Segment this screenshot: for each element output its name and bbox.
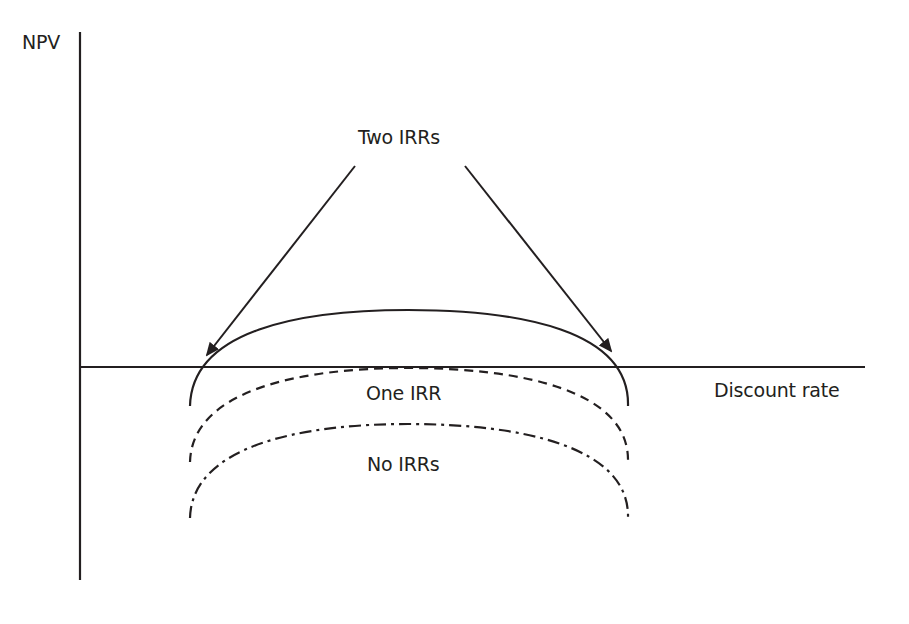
- x-axis-label: Discount rate: [714, 381, 839, 400]
- y-axis-label: NPV: [22, 33, 60, 52]
- npv-irr-diagram: [0, 0, 909, 624]
- one-irr-label: One IRR: [366, 384, 441, 403]
- two-irrs-label: Two IRRs: [358, 128, 440, 147]
- arrow-left-icon: [207, 166, 355, 355]
- no-irrs-label: No IRRs: [367, 455, 439, 474]
